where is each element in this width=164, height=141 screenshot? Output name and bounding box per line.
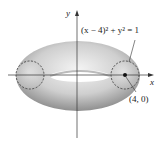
point-label: (4, 0) <box>129 95 149 104</box>
center-point <box>123 73 127 77</box>
y-axis-arrow-icon <box>75 10 79 16</box>
equation-label: (x − 4)² + y² = 1 <box>81 26 139 35</box>
torus-figure: y x (x − 4)² + y² = 1 (4, 0) <box>0 0 164 141</box>
equation-leader <box>129 40 135 62</box>
x-axis-label: x <box>150 78 154 87</box>
torus-drawing <box>0 0 164 141</box>
y-axis-label: y <box>66 9 70 18</box>
